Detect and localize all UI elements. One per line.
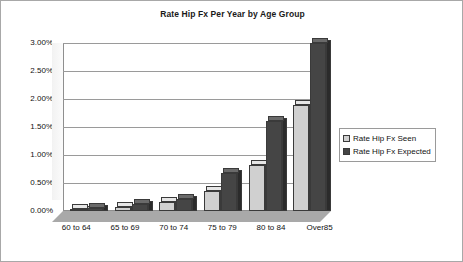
bar-face (159, 202, 175, 211)
chart-title: Rate Hip Fx Per Year by Age Group (1, 9, 463, 19)
bar-face (132, 204, 148, 211)
bar-face (310, 43, 326, 211)
x-axis-tick-label: 80 to 84 (247, 223, 296, 232)
y-axis-tick-label: 2.00% (9, 95, 53, 103)
bar-expected (87, 208, 103, 211)
axis-depth-wall (52, 32, 63, 200)
legend-item-expected: Rate Hip Fx Expected (343, 145, 431, 158)
bar-expected (132, 204, 148, 211)
bar-seen (159, 202, 175, 211)
x-axis-tick-label: 60 to 64 (52, 223, 101, 232)
y-axis-tick-label: 3.00% (9, 39, 53, 47)
y-axis-tick-label: 1.50% (9, 123, 53, 131)
bar-expected (176, 199, 192, 211)
bar-face (204, 191, 220, 211)
bar-face (115, 207, 131, 211)
plot-area (63, 43, 331, 211)
bar-face (249, 165, 265, 211)
bar-group (286, 43, 331, 211)
legend-swatch-seen-icon (343, 135, 350, 142)
bar-face (221, 173, 237, 211)
bar-expected (221, 173, 237, 211)
x-axis-tick-label: 65 to 69 (101, 223, 150, 232)
y-axis-tick-label: 0.00% (9, 207, 53, 215)
bar-face (176, 199, 192, 211)
bar-group (108, 43, 153, 211)
x-axis: 60 to 6465 to 6970 to 7475 to 7980 to 84… (52, 223, 344, 235)
bar-seen (70, 209, 86, 211)
bar-face (87, 208, 103, 211)
bar-face (70, 209, 86, 211)
bar-seen (249, 165, 265, 211)
bar-seen (293, 105, 309, 211)
legend-item-seen: Rate Hip Fx Seen (343, 132, 431, 145)
bar-face (266, 121, 282, 211)
bar-group (152, 43, 197, 211)
bar-group (197, 43, 242, 211)
bar-side (326, 40, 331, 211)
axis-depth-corner (52, 32, 63, 43)
bar-seen (115, 207, 131, 211)
legend-swatch-expected-icon (343, 148, 350, 155)
y-axis-tick-label: 1.00% (9, 151, 53, 159)
y-axis: 3.00%2.50%2.00%1.50%1.00%0.50%0.00% (9, 43, 53, 211)
x-axis-tick-label: 75 to 79 (198, 223, 247, 232)
bar-group (242, 43, 287, 211)
chart-legend: Rate Hip Fx Seen Rate Hip Fx Expected (339, 128, 436, 162)
y-axis-tick-label: 2.50% (9, 67, 53, 75)
bar-group (63, 43, 108, 211)
bar-expected (310, 43, 326, 211)
bar-expected (266, 121, 282, 211)
bar-seen (204, 191, 220, 211)
legend-label-seen: Rate Hip Fx Seen (353, 134, 416, 143)
x-axis-tick-label: 70 to 74 (149, 223, 198, 232)
legend-label-expected: Rate Hip Fx Expected (353, 147, 431, 156)
chart-frame: Rate Hip Fx Per Year by Age Group 3.00%2… (0, 0, 463, 262)
plot-floor (52, 211, 331, 222)
x-axis-tick-label: Over85 (295, 223, 344, 232)
bar-face (293, 105, 309, 211)
y-axis-tick-label: 0.50% (9, 179, 53, 187)
